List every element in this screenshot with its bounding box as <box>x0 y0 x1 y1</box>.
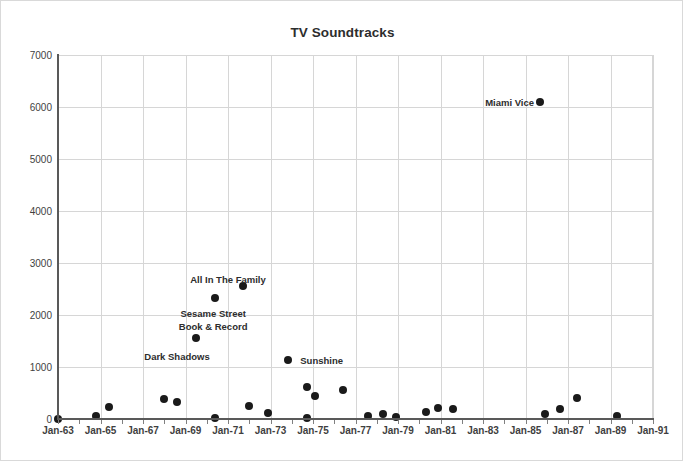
x-axis-tick <box>313 420 314 424</box>
gridline-vertical <box>568 55 569 419</box>
data-point <box>536 98 544 106</box>
data-point <box>211 294 219 302</box>
plot-area: All In The FamilySesame StreetBook & Rec… <box>58 55 653 419</box>
gridline-horizontal <box>58 367 653 368</box>
x-axis-tick <box>334 420 335 424</box>
data-point <box>245 402 253 410</box>
data-point <box>160 395 168 403</box>
y-axis-tick-label: 0 <box>6 414 52 425</box>
gridline-horizontal <box>58 263 653 264</box>
x-axis-tick <box>568 420 569 424</box>
gridline-horizontal <box>58 55 653 56</box>
x-axis-tick <box>271 420 272 424</box>
x-axis-tick-label: Jan-91 <box>623 425 683 436</box>
data-point <box>556 405 564 413</box>
y-axis-tick-label: 5000 <box>6 154 52 165</box>
gridline-vertical <box>441 55 442 419</box>
chart-frame: TV Soundtracks All In The FamilySesame S… <box>0 0 683 461</box>
point-annotation: Dark Shadows <box>144 351 209 362</box>
data-point <box>311 392 319 400</box>
data-point <box>173 398 181 406</box>
x-axis-tick <box>611 420 612 424</box>
point-annotation: Sunshine <box>300 355 343 366</box>
data-point <box>192 334 200 342</box>
gridline-vertical <box>483 55 484 419</box>
y-axis-tick-label: 7000 <box>6 50 52 61</box>
chart-title: TV Soundtracks <box>1 25 683 40</box>
x-axis-tick <box>356 420 357 424</box>
x-axis-tick <box>377 420 378 424</box>
x-axis-tick <box>589 420 590 424</box>
gridline-horizontal <box>58 211 653 212</box>
gridline-vertical <box>526 55 527 419</box>
data-point <box>449 405 457 413</box>
y-axis-tick-label: 2000 <box>6 310 52 321</box>
gridline-vertical <box>101 55 102 419</box>
x-axis-tick <box>419 420 420 424</box>
x-axis-tick <box>143 420 144 424</box>
data-point <box>339 386 347 394</box>
data-point <box>422 408 430 416</box>
gridline-vertical <box>186 55 187 419</box>
point-annotation: Sesame Street <box>180 308 245 319</box>
y-axis-tick-label: 1000 <box>6 362 52 373</box>
data-point <box>573 394 581 402</box>
x-axis-tick <box>398 420 399 424</box>
gridline-vertical <box>611 55 612 419</box>
x-axis-tick <box>526 420 527 424</box>
x-axis-tick <box>249 420 250 424</box>
gridline-horizontal <box>58 159 653 160</box>
x-axis-tick <box>632 420 633 424</box>
x-axis-tick <box>292 420 293 424</box>
gridline-vertical <box>228 55 229 419</box>
x-axis-tick <box>441 420 442 424</box>
gridline-vertical <box>356 55 357 419</box>
x-axis-tick <box>164 420 165 424</box>
point-annotation: All In The Family <box>190 274 266 285</box>
y-axis-tick-label: 4000 <box>6 206 52 217</box>
gridline-vertical <box>271 55 272 419</box>
x-axis-tick <box>547 420 548 424</box>
y-axis-tick-label: 3000 <box>6 258 52 269</box>
x-axis-tick <box>228 420 229 424</box>
data-point <box>105 403 113 411</box>
point-annotation: Miami Vice <box>485 96 534 107</box>
x-axis-tick <box>122 420 123 424</box>
data-point <box>284 356 292 364</box>
data-point <box>303 383 311 391</box>
y-axis-tick-label: 6000 <box>6 102 52 113</box>
x-axis-tick <box>79 420 80 424</box>
gridline-horizontal <box>58 107 653 108</box>
x-axis-tick <box>462 420 463 424</box>
x-axis-tick <box>207 420 208 424</box>
gridline-vertical <box>653 55 654 419</box>
x-axis-tick <box>653 420 654 424</box>
gridline-vertical <box>398 55 399 419</box>
x-axis-tick <box>58 420 59 424</box>
x-axis-tick <box>101 420 102 424</box>
gridline-vertical <box>143 55 144 419</box>
gridline-horizontal <box>58 315 653 316</box>
point-annotation: Book & Record <box>179 321 248 332</box>
y-axis-labels: 01000200030004000500060007000 <box>1 1 52 461</box>
x-axis-tick <box>504 420 505 424</box>
x-axis-tick <box>186 420 187 424</box>
x-axis-tick <box>483 420 484 424</box>
y-axis-line <box>57 54 59 420</box>
